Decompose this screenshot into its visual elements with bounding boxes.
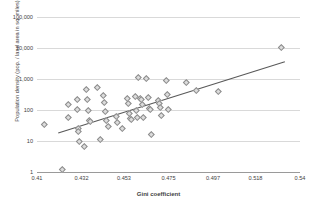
x-tick-label: 0.54 (285, 175, 315, 181)
data-point (133, 107, 139, 113)
data-point (102, 99, 108, 105)
x-tick-label: 0.475 (154, 175, 184, 181)
x-tick-label: 0.432 (67, 175, 97, 181)
y-tick-label: 10,000 (0, 45, 33, 51)
data-point (84, 96, 90, 102)
data-point (74, 96, 80, 102)
data-point (75, 128, 81, 134)
y-tick-label: 100,000 (0, 14, 33, 20)
data-point (165, 106, 171, 112)
data-point (140, 114, 146, 120)
data-point (114, 119, 120, 125)
data-point (85, 107, 91, 113)
gridline (37, 17, 300, 18)
data-point (113, 113, 119, 119)
plot-area (37, 17, 300, 172)
data-point (183, 79, 189, 85)
data-point (158, 112, 164, 118)
data-point (94, 84, 100, 90)
data-point (87, 118, 93, 124)
data-point (83, 86, 89, 92)
data-point (41, 121, 47, 127)
data-point (81, 143, 87, 149)
y-tick-label: 1,000 (0, 76, 33, 82)
data-point (193, 87, 199, 93)
data-point (145, 94, 151, 100)
data-point (148, 131, 154, 137)
y-tick-label: 100 (0, 107, 33, 113)
y-axis-title: Population density (pop. / land area in … (14, 0, 20, 136)
x-tick-label: 0.518 (240, 175, 270, 181)
x-axis-line (37, 172, 300, 173)
x-tick-label: 0.453 (109, 175, 139, 181)
gridline (37, 48, 300, 49)
data-point (215, 88, 221, 94)
data-point (65, 101, 71, 107)
data-point (65, 114, 71, 120)
data-point (164, 91, 170, 97)
data-point (139, 101, 145, 107)
data-point (76, 138, 82, 144)
data-point (105, 123, 111, 129)
data-point (125, 100, 131, 106)
scatter-chart: Population density (pop. / land area in … (0, 0, 317, 199)
data-point (147, 106, 153, 112)
y-tick-label: 10 (0, 138, 33, 144)
data-point (74, 106, 80, 112)
x-axis-title: Gini coefficient (0, 191, 317, 197)
x-tick-label: 0.497 (198, 175, 228, 181)
data-point (119, 125, 125, 131)
x-tick-label: 0.41 (22, 175, 52, 181)
data-point (279, 44, 285, 50)
data-point (143, 75, 149, 81)
